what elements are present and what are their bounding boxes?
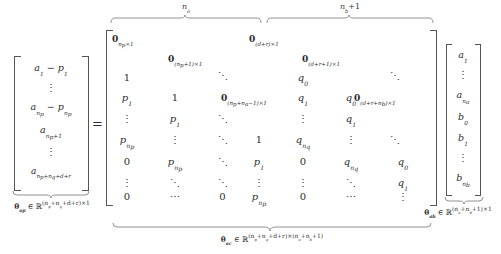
- zero-block-col1-top: 0np×1: [112, 34, 134, 44]
- rv-row-b1: b1: [446, 132, 480, 143]
- rv-row-a1: a1: [446, 49, 480, 60]
- m-c2-r8: ⋱: [158, 177, 192, 188]
- matrix-bracket-close: [430, 30, 437, 206]
- matrix-label: θac ∈ ℝ(np+nq+d+r)×(na+nb+1): [112, 232, 432, 244]
- right-vector-theta-ab: a1 ⋮ ana b0 b1 ⋮ bnb: [446, 44, 480, 196]
- m-c3-r6: ⋱: [206, 134, 240, 145]
- zero-block-col5-top: 0(d+r+1)×1: [302, 54, 340, 64]
- m-c3b-r8: ⋮: [242, 177, 276, 188]
- top-brace-nb1-label: nb+1: [266, 2, 434, 11]
- m-c4-r7: 0: [286, 156, 320, 167]
- lv-row-np1: anp+1: [14, 124, 88, 135]
- lv-row-np: anp − pnp: [14, 101, 88, 112]
- left-vector-label: θap ∈ ℝ(np+nq+d+r)×1: [2, 199, 102, 211]
- m-c3b-r7: p1: [242, 156, 276, 167]
- m-c5-r7: qnq: [334, 156, 368, 167]
- m-c3-r9: 0: [206, 191, 240, 202]
- m-c4-r5: ⋮: [286, 113, 320, 124]
- zero-block-mid-right: 0(np+na−1)×1: [221, 93, 267, 103]
- m-c3-r3: ⋱: [206, 70, 240, 81]
- m-c4-r4: q1: [286, 92, 320, 103]
- m-c5-r9: ⋯: [334, 191, 368, 202]
- m-c1-r6: pnp: [110, 134, 144, 145]
- right-vector-label: θab ∈ ℝ(na+nb+1)×1: [415, 205, 501, 217]
- m-c6-r8: q1: [386, 177, 420, 188]
- rv-row-ana: ana: [446, 89, 480, 100]
- m-c6-r3: ⋱: [378, 70, 412, 81]
- top-brace-na: [110, 14, 262, 24]
- matrix-underbrace: [112, 222, 432, 232]
- m-c6-r6: ⋱: [378, 134, 412, 145]
- rv-vdots-1: ⋮: [446, 69, 480, 80]
- m-c2-r4: 1: [158, 92, 192, 103]
- m-c1-r5: ⋮: [110, 113, 144, 124]
- m-c2-r6: ⋮: [158, 134, 192, 145]
- m-c1-r8: ⋮: [110, 177, 144, 188]
- lv-row-1: a1 − p1: [14, 62, 88, 73]
- lv-vdots-2: ⋮: [14, 146, 88, 157]
- m-c2-r5: p1: [158, 113, 192, 124]
- left-vector-theta-ap: a1 − p1 ⋮ anp − pnp anp+1 ⋮ anp+nq+d+r: [14, 56, 88, 191]
- m-c1-r9: 0: [110, 191, 144, 202]
- m-c4-r3: q0: [286, 72, 320, 83]
- lv-vdots-1: ⋮: [14, 82, 88, 93]
- top-brace-nb1: [266, 14, 434, 24]
- rv-row-b0: b0: [446, 111, 480, 122]
- m-c3-r8: ⋱: [206, 177, 240, 188]
- m-c2-r9: ⋯: [158, 191, 192, 202]
- m-c5-r5: q1: [334, 113, 368, 124]
- m-c4-r6: qnq: [286, 134, 320, 145]
- m-c5-r8: ⋱: [334, 177, 368, 188]
- m-c4-r9: 0: [286, 191, 320, 202]
- zero-block-col2-top: 0(np+1)×1: [168, 54, 202, 64]
- rv-row-bnb: bnb: [446, 172, 480, 183]
- matrix-equation-figure: a1 − p1 ⋮ anp − pnp anp+1 ⋮ anp+nq+d+r θ…: [0, 0, 501, 254]
- equals-sign: =: [92, 116, 103, 131]
- m-c1-r4: p1: [110, 92, 144, 103]
- m-c3-r7: ⋱: [206, 156, 240, 167]
- m-c5-r6: ⋮: [334, 134, 368, 145]
- m-c3-r5: ⋱: [206, 113, 240, 124]
- m-c2-r7: pnp: [158, 156, 192, 167]
- right-vector-underbrace: [444, 196, 484, 205]
- top-brace-na-label: na: [110, 2, 262, 11]
- m-c4-r8: ⋮: [286, 177, 320, 188]
- m-c3b-r6: 1: [242, 134, 276, 145]
- m-c3b-r9: pnp: [242, 191, 276, 202]
- left-vector-underbrace: [12, 190, 90, 199]
- lv-row-last: anp+nq+d+r: [14, 166, 88, 176]
- m-c1-r7: 0: [110, 156, 144, 167]
- m-c6-r9: ⋮: [386, 191, 420, 202]
- m-c6-r7: q0: [386, 156, 420, 167]
- m-c1-r3: 1: [110, 72, 144, 83]
- m-c5-r4: q0: [334, 92, 368, 103]
- matrix-theta-ac: 0np×1 0(np+1)×1 0(np+na−1)×1 0(d+r)×1 0(…: [106, 30, 436, 206]
- zero-block-col4-top: 0(d+r)×1: [249, 34, 279, 44]
- rv-vdots-2: ⋮: [446, 152, 480, 163]
